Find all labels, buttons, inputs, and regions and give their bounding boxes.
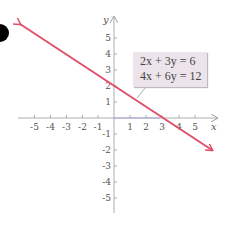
bullet-marker-icon [0, 24, 9, 42]
y-tick-label: -3 [102, 161, 111, 171]
y-tick-label: 4 [105, 49, 111, 59]
y-tick-label: 5 [105, 33, 111, 43]
equation-1: 2x + 3y = 6 [140, 54, 207, 69]
x-tick-label: 2 [143, 122, 149, 132]
x-tick-label: 1 [127, 122, 133, 132]
y-axis-label: y [102, 14, 109, 25]
x-tick-label: -4 [46, 122, 55, 132]
x-axis-label: x [211, 121, 217, 132]
graph-canvas: -5 -4 -3 -2 -1 1 2 3 4 5 x 5 4 3 2 1 -1 … [0, 0, 228, 225]
x-tick-label: -5 [30, 122, 39, 132]
equation-2: 4x + 6y = 12 [140, 69, 207, 84]
y-tick-label: 3 [105, 65, 111, 75]
y-tick-label: -1 [102, 129, 111, 139]
x-tick-label: 3 [159, 122, 165, 132]
x-tick-label: -3 [62, 122, 71, 132]
y-tick-label: 1 [105, 97, 111, 107]
y-tick-label: -5 [102, 193, 111, 203]
x-tick-label: 5 [192, 122, 198, 132]
x-ticks [35, 115, 196, 118]
x-tick-label: -2 [78, 122, 87, 132]
y-tick-label: -2 [102, 145, 111, 155]
y-tick-label: -4 [102, 177, 111, 187]
equation-label-box: 2x + 3y = 6 4x + 6y = 12 [133, 52, 207, 87]
annotation-pointer [137, 87, 146, 98]
x-tick-label: -1 [94, 122, 103, 132]
